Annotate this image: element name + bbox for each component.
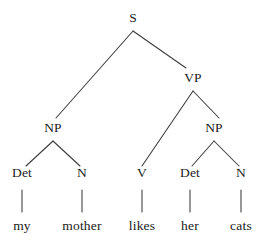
edge-vp-to-np-object bbox=[193, 91, 219, 118]
edge-np-object-to-n bbox=[214, 141, 239, 166]
word-my: my bbox=[13, 219, 31, 233]
node-n-1: N bbox=[77, 166, 87, 180]
edge-s-to-vp bbox=[133, 31, 186, 68]
node-det-2: Det bbox=[180, 166, 200, 180]
word-her: her bbox=[181, 219, 199, 233]
edge-np-subject-to-det bbox=[26, 141, 53, 166]
tree-edges-canvas bbox=[0, 0, 263, 241]
branch-lines bbox=[26, 31, 239, 166]
node-np-subject: NP bbox=[44, 121, 62, 135]
node-vp: VP bbox=[184, 71, 202, 85]
syntax-tree-figure: S VP NP NP Det N V Det N my mother likes… bbox=[0, 0, 263, 241]
word-mother: mother bbox=[62, 219, 101, 233]
edge-np-object-to-det bbox=[192, 141, 214, 166]
word-likes: likes bbox=[129, 219, 156, 233]
terminal-stems bbox=[22, 190, 241, 212]
edge-s-to-np-subject bbox=[56, 31, 133, 118]
node-det-1: Det bbox=[12, 166, 32, 180]
node-n-2: N bbox=[236, 166, 246, 180]
edge-vp-to-v bbox=[142, 91, 193, 166]
word-cats: cats bbox=[230, 219, 252, 233]
edge-np-subject-to-n bbox=[53, 141, 80, 166]
node-np-object: NP bbox=[205, 121, 223, 135]
node-v-1: V bbox=[137, 166, 147, 180]
node-s: S bbox=[129, 11, 137, 25]
